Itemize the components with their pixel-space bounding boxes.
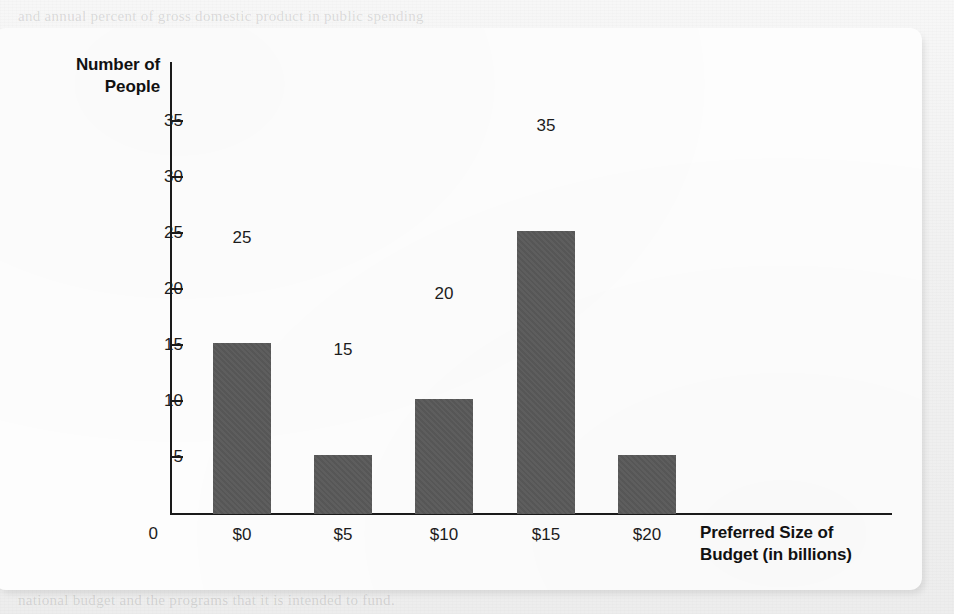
bar-value-label: 20: [415, 285, 473, 302]
bar-0[interactable]: [213, 343, 271, 514]
x-tick-label-0: $0: [213, 526, 271, 543]
x-axis-title-line-2: Budget (in billions): [700, 544, 915, 566]
x-tick-label-2: $10: [415, 526, 473, 543]
bar-group-0[interactable]: 25 $0: [213, 62, 271, 514]
bar-2[interactable]: [415, 399, 473, 514]
x-axis-title: Preferred Size of Budget (in billions): [700, 522, 915, 566]
bar-group-4[interactable]: 5 $20: [618, 62, 676, 514]
bar-1[interactable]: [314, 455, 372, 514]
bars-layer: 25 $0 15 $5 20 $10 35 $15 5: [170, 62, 892, 514]
bar-3[interactable]: [517, 231, 575, 514]
bar-value-label: 25: [213, 229, 271, 246]
bar-chart: Number of People 35 30 25 20 15 10: [0, 0, 954, 614]
x-tick-label-3: $15: [517, 526, 575, 543]
y-axis-origin-label: 0: [110, 524, 158, 544]
x-tick-label-1: $5: [314, 526, 372, 543]
y-axis-title: Number of People: [10, 54, 160, 98]
bar-group-3[interactable]: 35 $15: [517, 62, 575, 514]
y-axis-title-line-1: Number of: [10, 54, 160, 76]
bar-4[interactable]: [618, 455, 676, 514]
bar-value-label: 15: [314, 341, 372, 358]
bar-group-2[interactable]: 20 $10: [415, 62, 473, 514]
x-tick-label-4: $20: [618, 526, 676, 543]
bar-value-label: 35: [517, 117, 575, 134]
y-axis-title-line-2: People: [10, 76, 160, 98]
page-background: and annual percent of gross domestic pro…: [0, 0, 954, 614]
bar-group-1[interactable]: 15 $5: [314, 62, 372, 514]
x-axis-title-line-1: Preferred Size of: [700, 522, 915, 544]
